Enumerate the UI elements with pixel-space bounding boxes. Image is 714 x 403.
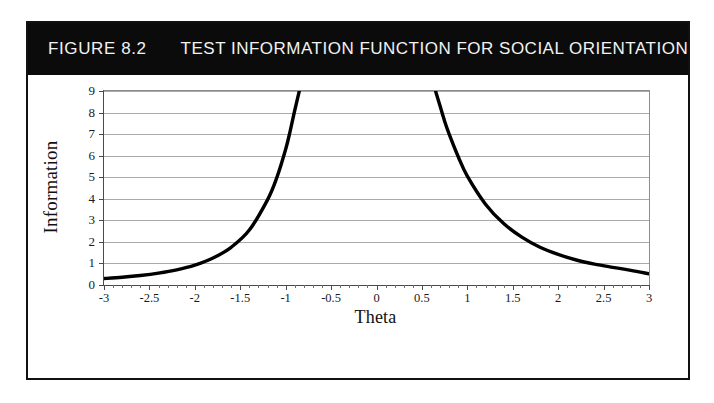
- x-tick-mark: [240, 285, 241, 290]
- x-tick-mark: [104, 285, 105, 290]
- y-tick-label: 4: [89, 192, 96, 205]
- x-tick-minor: [386, 285, 387, 288]
- x-tick-mark: [467, 285, 468, 290]
- figure-header: FIGURE 8.2 TEST INFORMATION FUNCTION FOR…: [28, 23, 688, 75]
- plot-area: 0123456789 -3-2.5-2-1.5-1-0.500.511.522.…: [103, 90, 650, 286]
- y-tick-label: 1: [89, 257, 96, 270]
- x-tick-minor: [622, 285, 623, 288]
- x-tick-minor: [231, 285, 232, 288]
- x-tick-label: 2.5: [596, 292, 612, 305]
- x-tick-minor: [504, 285, 505, 288]
- x-tick-minor: [613, 285, 614, 288]
- x-tick-mark: [286, 285, 287, 290]
- x-tick-label: -1.5: [230, 292, 250, 305]
- figure-frame: FIGURE 8.2 TEST INFORMATION FUNCTION FOR…: [26, 21, 690, 380]
- x-tick-minor: [268, 285, 269, 288]
- x-tick-minor: [340, 285, 341, 288]
- x-tick-minor: [486, 285, 487, 288]
- x-tick-minor: [313, 285, 314, 288]
- y-tick-label: 7: [89, 127, 96, 140]
- x-tick-minor: [367, 285, 368, 288]
- x-tick-minor: [585, 285, 586, 288]
- y-tick-label: 9: [89, 84, 96, 97]
- figure-number: FIGURE 8.2: [48, 39, 147, 59]
- x-tick-minor: [595, 285, 596, 288]
- x-tick-mark: [513, 285, 514, 290]
- x-tick-minor: [522, 285, 523, 288]
- x-tick-mark: [558, 285, 559, 290]
- x-tick-mark: [422, 285, 423, 290]
- x-tick-minor: [413, 285, 414, 288]
- chart-body: Information 0123456789 -3-2.5-2-1.5-1-0.…: [28, 75, 688, 378]
- x-tick-minor: [358, 285, 359, 288]
- x-tick-minor: [322, 285, 323, 288]
- x-tick-minor: [349, 285, 350, 288]
- x-tick-minor: [295, 285, 296, 288]
- x-tick-minor: [258, 285, 259, 288]
- curve-right-branch: [436, 91, 649, 274]
- x-tick-mark: [604, 285, 605, 290]
- x-tick-minor: [204, 285, 205, 288]
- x-tick-minor: [249, 285, 250, 288]
- x-tick-mark: [649, 285, 650, 290]
- x-tick-label: -0.5: [321, 292, 341, 305]
- x-tick-mark: [195, 285, 196, 290]
- x-tick-minor: [576, 285, 577, 288]
- x-tick-minor: [140, 285, 141, 288]
- x-tick-minor: [495, 285, 496, 288]
- x-tick-minor: [631, 285, 632, 288]
- x-tick-mark: [331, 285, 332, 290]
- x-tick-label: 3: [646, 292, 652, 305]
- x-tick-minor: [449, 285, 450, 288]
- x-tick-minor: [458, 285, 459, 288]
- x-tick-minor: [222, 285, 223, 288]
- x-tick-minor: [395, 285, 396, 288]
- y-tick-label: 5: [89, 170, 96, 183]
- curve-left-branch: [104, 91, 299, 279]
- x-tick-label: -1: [280, 292, 290, 305]
- x-tick-mark: [377, 285, 378, 290]
- x-tick-minor: [159, 285, 160, 288]
- x-tick-label: 0: [373, 292, 379, 305]
- x-tick-label: 0.5: [414, 292, 430, 305]
- y-tick-label: 3: [89, 214, 96, 227]
- figure-title: TEST INFORMATION FUNCTION FOR SOCIAL ORI…: [181, 39, 688, 59]
- x-tick-minor: [640, 285, 641, 288]
- x-tick-minor: [177, 285, 178, 288]
- x-tick-label: -2.5: [140, 292, 160, 305]
- x-tick-minor: [113, 285, 114, 288]
- y-tick-label: 2: [89, 235, 96, 248]
- x-tick-label: 1.5: [505, 292, 521, 305]
- x-tick-minor: [567, 285, 568, 288]
- y-axis-label-text: Information: [40, 141, 62, 234]
- y-tick-label: 0: [89, 278, 96, 291]
- y-tick-label: 6: [89, 149, 96, 162]
- x-tick-label: 1: [464, 292, 470, 305]
- x-tick-minor: [131, 285, 132, 288]
- x-tick-label: -2: [190, 292, 200, 305]
- x-tick-minor: [186, 285, 187, 288]
- y-tick-label: 8: [89, 106, 96, 119]
- x-tick-minor: [540, 285, 541, 288]
- x-tick-label: 2: [555, 292, 561, 305]
- information-curve: [104, 91, 649, 285]
- x-tick-minor: [549, 285, 550, 288]
- x-tick-mark: [149, 285, 150, 290]
- x-tick-minor: [277, 285, 278, 288]
- x-tick-minor: [531, 285, 532, 288]
- x-tick-minor: [168, 285, 169, 288]
- x-tick-minor: [213, 285, 214, 288]
- x-tick-label: -3: [99, 292, 109, 305]
- x-tick-minor: [304, 285, 305, 288]
- x-tick-minor: [404, 285, 405, 288]
- x-tick-minor: [122, 285, 123, 288]
- x-tick-minor: [440, 285, 441, 288]
- x-tick-minor: [431, 285, 432, 288]
- x-axis-label: Theta: [103, 307, 648, 328]
- y-axis-label: Information: [38, 90, 64, 284]
- x-tick-minor: [476, 285, 477, 288]
